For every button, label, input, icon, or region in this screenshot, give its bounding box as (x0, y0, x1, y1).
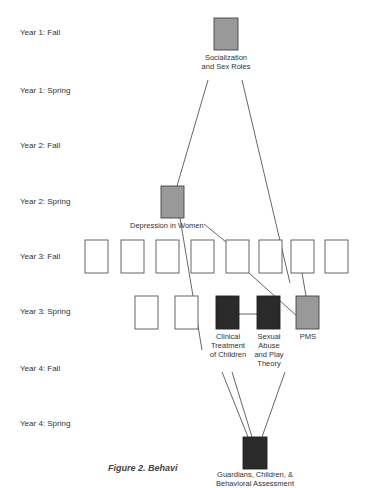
label-sexual-line4: Theory (248, 359, 290, 368)
label-guardians-line1: Guardians, Children, & (196, 470, 314, 479)
y3-fall-box-5 (226, 240, 249, 273)
node-guardians (243, 437, 267, 469)
node-depression (161, 186, 184, 218)
edge-socialization-depression (177, 80, 208, 186)
label-clinical-line1: Clinical (204, 332, 252, 341)
node-socialization (214, 18, 238, 50)
edge-depression-clinical (180, 218, 202, 350)
label-socialization-line2: and Sex Roles (196, 62, 256, 71)
label-sexual-line1: Sexual (248, 332, 290, 341)
guardians-label-correct: Guardians, Children, & Behavioral Assess… (196, 470, 314, 488)
edge-box7-pms (302, 273, 306, 296)
y3-fall-box-4 (191, 240, 214, 273)
y3-spring-box-2 (175, 296, 198, 329)
label-socialization-line1: Socialization (196, 53, 256, 62)
y3-spring-box-1 (135, 296, 158, 329)
label-clinical-line2: Treatment (204, 341, 252, 350)
y3-fall-box-6 (259, 240, 282, 273)
y3-fall-box-1 (85, 240, 108, 273)
node-clinical (216, 296, 239, 329)
y3-fall-box-2 (121, 240, 144, 273)
y3-fall-box-8 (325, 240, 348, 273)
y3-fall-boxes (85, 240, 348, 273)
edge-sexual-guardians (262, 372, 285, 437)
label-guardians-line2: Behavioral Assessment (196, 479, 314, 488)
label-pms: PMS (298, 332, 318, 341)
figure-caption: Figure 2. Behavi (108, 463, 178, 473)
node-pms (296, 296, 319, 329)
node-sexual-abuse (257, 296, 280, 329)
label-sexual-line2: Abuse (248, 341, 290, 350)
label-clinical-line3: of Children (204, 350, 252, 359)
y3-fall-box-3 (156, 240, 179, 273)
label-sexual-line3: and Play (248, 350, 290, 359)
y3-fall-box-7 (291, 240, 314, 273)
label-socialization: Socialization and Sex Roles (196, 53, 256, 71)
label-clinical: Clinical Treatment of Children (204, 332, 252, 359)
label-depression: Depression in Women (130, 221, 204, 230)
label-sexual-abuse: Sexual Abuse and Play Theory (248, 332, 290, 368)
edge-depression-box5 (204, 224, 226, 242)
